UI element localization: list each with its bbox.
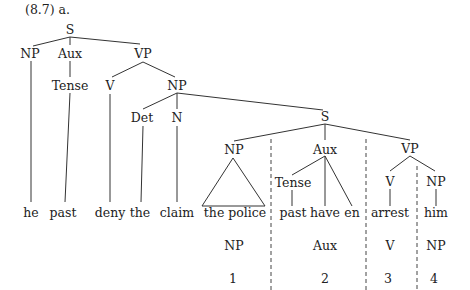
analysis-index: 1: [229, 271, 237, 286]
leaf: have: [310, 205, 340, 220]
analysis-category: NP: [426, 238, 445, 253]
node-s: S: [66, 22, 75, 37]
analysis-category: V: [384, 238, 395, 253]
leaf: the police: [204, 205, 266, 220]
structural-analysis: NP Aux V NP 1 2 3 4: [224, 238, 445, 286]
tree-edges: [31, 37, 436, 206]
node-embedded-v: V: [384, 174, 395, 189]
leaf: the: [130, 205, 150, 220]
node-embedded-vp: VP: [400, 141, 418, 156]
leaf: him: [424, 205, 448, 220]
node-np: NP: [167, 78, 186, 93]
tree-nodes: S NP Aux VP Tense V NP Det N S NP Aux VP…: [20, 22, 445, 190]
leaf: arrest: [371, 205, 409, 220]
node-vp: VP: [133, 46, 151, 61]
analysis-index: 4: [430, 271, 438, 286]
node-n: N: [172, 110, 183, 125]
node-np: NP: [20, 46, 39, 61]
node-embedded-np: NP: [426, 174, 445, 189]
leaf: he: [23, 205, 38, 220]
syntax-tree-diagram: (8.7) a.: [0, 0, 470, 290]
node-embedded-aux: Aux: [312, 142, 337, 157]
leaf: deny: [95, 205, 126, 220]
example-label: (8.7) a.: [25, 2, 70, 17]
leaf: en: [344, 205, 359, 220]
analysis-category: Aux: [312, 238, 337, 253]
node-embedded-s: S: [321, 109, 330, 124]
analysis-index: 3: [384, 271, 392, 286]
node-embedded-tense: Tense: [275, 175, 312, 190]
leaf: claim: [160, 205, 194, 220]
leaf: past: [280, 205, 307, 220]
node-embedded-np: NP: [224, 142, 243, 157]
node-tense: Tense: [52, 78, 89, 93]
node-v: V: [104, 78, 115, 93]
leaf: past: [50, 205, 77, 220]
node-det: Det: [131, 110, 153, 125]
leaf-words: he past deny the claim the police past h…: [23, 205, 448, 220]
analysis-index: 2: [321, 271, 329, 286]
node-aux: Aux: [57, 46, 82, 61]
analysis-category: NP: [224, 238, 243, 253]
